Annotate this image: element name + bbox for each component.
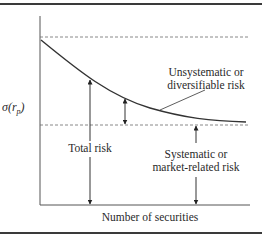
total-risk-label: Total risk <box>62 142 118 155</box>
y-axis-label-close: ) <box>21 100 25 114</box>
systematic-risk-label: Systematic or market-related risk <box>144 148 248 174</box>
systematic-label-line1: Systematic or <box>144 148 248 161</box>
y-axis-label: σ(rp) <box>2 101 25 118</box>
systematic-label-line2: market-related risk <box>144 161 248 174</box>
x-axis-label-text: Number of securities <box>102 211 198 223</box>
unsystematic-leader-line <box>160 90 205 110</box>
x-axis-label: Number of securities <box>60 211 240 224</box>
unsystematic-label-line2: diversifiable risk <box>160 79 252 92</box>
y-axis-label-main: σ(r <box>2 100 17 114</box>
risk-diagram <box>0 0 262 236</box>
total-risk-text: Total risk <box>68 142 112 154</box>
unsystematic-label-line1: Unsystematic or <box>160 66 252 79</box>
unsystematic-risk-label: Unsystematic or diversifiable risk <box>160 66 252 92</box>
